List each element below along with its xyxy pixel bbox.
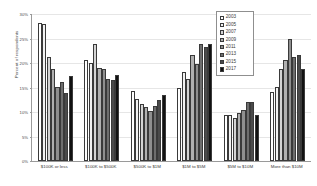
y-axis-tick-label: 5% xyxy=(10,134,28,139)
bar xyxy=(69,76,73,161)
legend-item[interactable]: 2011 xyxy=(220,44,251,51)
x-axis-tick-label: $1M to $5M xyxy=(171,164,218,169)
legend-swatch-icon xyxy=(220,38,224,42)
bar-group xyxy=(172,14,219,161)
y-axis-tick-labels: 0%5%10%15%20%25%30% xyxy=(8,0,28,186)
x-axis-tick-label: $100K to $500K xyxy=(78,164,125,169)
legend-item[interactable]: 2015 xyxy=(220,58,251,65)
y-axis-tick-label: 10% xyxy=(10,110,28,115)
x-axis-tick-label: $5M to $10M xyxy=(217,164,264,169)
legend-swatch-icon xyxy=(220,30,224,34)
y-axis-tickmark xyxy=(30,161,32,162)
legend-swatch-icon xyxy=(220,45,224,49)
legend-item[interactable]: 2005 xyxy=(220,21,251,28)
x-axis-tick-label: More than $10M xyxy=(264,164,311,169)
bar-group xyxy=(79,14,126,161)
legend-item[interactable]: 2003 xyxy=(220,14,251,21)
legend-label: 2003 xyxy=(226,15,236,20)
bar-group xyxy=(125,14,172,161)
bar-chart: Percent of respondents 0%5%10%15%20%25%3… xyxy=(0,0,317,186)
bar-group xyxy=(32,14,79,161)
legend-swatch-icon xyxy=(220,67,224,71)
legend-swatch-icon xyxy=(220,16,224,20)
y-axis-tick-label: 15% xyxy=(10,85,28,90)
legend-label: 2015 xyxy=(226,60,236,65)
y-axis-tick-label: 25% xyxy=(10,36,28,41)
plot-area xyxy=(31,14,311,162)
y-axis-tick-label: 20% xyxy=(10,61,28,66)
bar xyxy=(115,75,119,161)
legend-label: 2009 xyxy=(226,38,236,43)
y-axis-tick-label: 0% xyxy=(10,159,28,164)
x-axis-tick-labels: $100K or less$100K to $500K$500K to $1M$… xyxy=(31,164,310,169)
legend-label: 2011 xyxy=(226,45,236,50)
bar xyxy=(162,95,166,161)
bar xyxy=(255,115,259,161)
bar-group xyxy=(265,14,312,161)
bar-groups xyxy=(32,14,311,161)
legend-label: 2013 xyxy=(226,52,236,57)
bar xyxy=(301,69,305,161)
legend-item[interactable]: 2017 xyxy=(220,66,251,73)
legend-item[interactable]: 2007 xyxy=(220,29,251,36)
legend-item[interactable]: 2013 xyxy=(220,51,251,58)
legend-label: 2007 xyxy=(226,30,236,35)
y-axis-tick-label: 30% xyxy=(10,12,28,17)
legend-swatch-icon xyxy=(220,60,224,64)
legend: 20032005200720092011201320152017 xyxy=(216,11,254,76)
legend-swatch-icon xyxy=(220,23,224,27)
legend-swatch-icon xyxy=(220,53,224,57)
legend-label: 2005 xyxy=(226,23,236,28)
legend-label: 2017 xyxy=(226,67,236,72)
x-axis-tick-label: $500K to $1M xyxy=(124,164,171,169)
legend-item[interactable]: 2009 xyxy=(220,36,251,43)
bar xyxy=(208,44,212,161)
x-axis-tick-label: $100K or less xyxy=(31,164,78,169)
